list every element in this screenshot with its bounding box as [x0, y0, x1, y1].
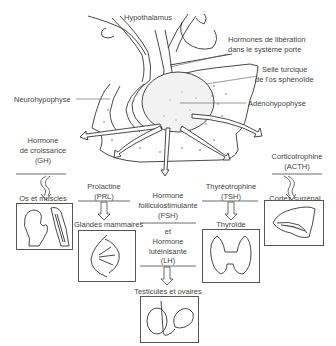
label-gh-1: Hormone — [20, 136, 66, 145]
label-target-gonads: Testicules et ovaires — [128, 287, 208, 296]
label-gh-3: (GH) — [20, 156, 66, 165]
label-fsh-2: folliculostimulante — [132, 201, 204, 210]
label-tsh-2: (TSH) — [200, 192, 262, 201]
label-gh-2: de croissance — [14, 146, 72, 155]
label-tsh-1: Thyréotrophine — [200, 182, 262, 191]
label-lh-1: Hormone — [138, 237, 198, 246]
label-prl-2: (PRL) — [78, 192, 130, 201]
label-sella-2: de l'os sphénoïde — [255, 75, 314, 84]
image-mammary-glands — [78, 230, 136, 282]
label-and: et — [138, 227, 198, 236]
label-acth-2: (ACTH) — [266, 162, 328, 171]
label-target-bones-muscles: Os et muscles — [14, 194, 72, 203]
label-sella-1: Selle turcique — [262, 65, 307, 74]
label-target-thyroid: Thyroïde — [200, 220, 262, 229]
label-releasing-hormones-2: dans le système porte — [228, 45, 301, 54]
label-lh-2: lutéinisante — [138, 247, 198, 256]
label-hypothalamus: Hypothalamus — [124, 13, 172, 22]
label-adenohypophysis: Adénohypophyse — [248, 99, 306, 108]
label-fsh-3: (FSH) — [138, 211, 198, 220]
image-adrenal-cortex — [264, 200, 324, 246]
image-testes-ovaries — [140, 296, 199, 343]
image-bones-muscles — [16, 203, 73, 250]
label-releasing-hormones-1: Hormones de libération — [228, 35, 306, 44]
label-neurohypophysis: Neurohypophyse — [14, 95, 71, 104]
label-acth-1: Corticotrophine — [266, 152, 328, 161]
label-lh-3: (LH) — [138, 256, 198, 265]
image-thyroid — [202, 229, 260, 283]
label-fsh-1: Hormone — [138, 191, 198, 200]
label-target-mammary: Glandes mammaires — [74, 220, 140, 229]
label-prl-1: Prolactine — [78, 182, 130, 191]
